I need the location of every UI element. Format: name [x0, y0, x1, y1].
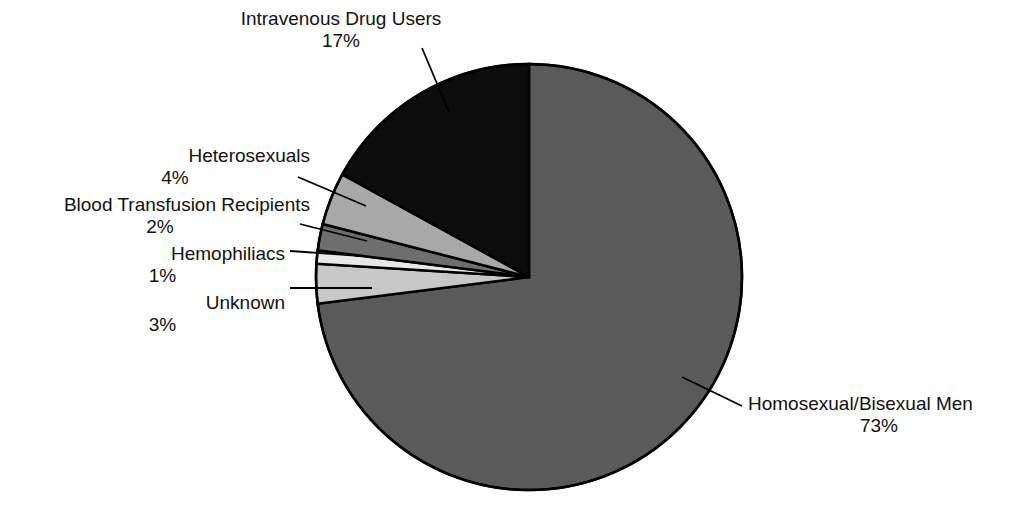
slice-label-percent: 3%	[40, 314, 285, 336]
slice-label-heterosexuals: Heterosexuals 4%	[40, 145, 310, 189]
slice-label-percent: 2%	[10, 216, 310, 238]
slice-label-name: Unknown	[40, 292, 285, 314]
pie-chart-page: Intravenous Drug Users 17% Heterosexuals…	[0, 0, 1012, 519]
slice-label-name: Hemophiliacs	[40, 243, 285, 265]
slice-label-name: Heterosexuals	[40, 145, 310, 167]
slice-label-percent: 1%	[40, 265, 285, 287]
slice-label-percent: 73%	[748, 415, 1010, 437]
slice-label-percent: 17%	[216, 30, 466, 52]
slice-label-percent: 4%	[40, 167, 310, 189]
slice-label-blood-transfusion-recipients: Blood Transfusion Recipients 2%	[10, 194, 310, 238]
slice-label-name: Intravenous Drug Users	[216, 8, 466, 30]
slice-label-hemophiliacs: Hemophiliacs 1%	[40, 243, 285, 287]
slice-label-name: Blood Transfusion Recipients	[10, 194, 310, 216]
slice-label-name: Homosexual/Bisexual Men	[748, 393, 1010, 415]
slice-label-intravenous-drug-users: Intravenous Drug Users 17%	[216, 8, 466, 52]
slice-label-homosexual-bisexual-men: Homosexual/Bisexual Men 73%	[748, 393, 1010, 437]
slice-label-unknown: Unknown 3%	[40, 292, 285, 336]
pie-slices-group	[316, 64, 742, 490]
